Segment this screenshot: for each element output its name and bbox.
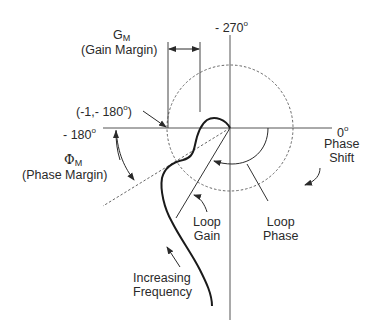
phase-shift-line2: Shift [324, 151, 359, 165]
loop-gain-line1: Loop [193, 215, 221, 229]
critical-point-value: (-1,- 180 [76, 105, 123, 119]
loop-gain-pointer [194, 195, 207, 212]
phase-shift-arrow [305, 168, 320, 185]
frequency-line2: Frequency [133, 285, 192, 299]
frequency-label: Increasing Frequency [133, 271, 192, 299]
phase-shift-label: Phase Shift [324, 137, 359, 165]
gain-margin-label: (Gain Margin) [81, 43, 157, 57]
top-axis-value: - 270 [215, 21, 244, 35]
phase-shift-line1: Phase [324, 137, 359, 151]
critical-point-label: (-1,- 180o) [76, 101, 132, 119]
left-axis-value: - 180 [63, 128, 92, 142]
increasing-frequency-arrow [167, 247, 180, 267]
phase-margin-label: (Phase Margin) [22, 168, 107, 182]
phase-margin-letter: Φ [64, 152, 75, 167]
loop-phase-line2: Phase [263, 229, 298, 243]
frequency-line1: Increasing [133, 271, 192, 285]
loop-gain-vector [176, 128, 230, 218]
left-axis-degree: o [92, 126, 96, 135]
loop-phase-arc [214, 128, 268, 164]
loop-phase-pointer [247, 164, 268, 201]
top-axis-label: - 270o [215, 17, 248, 35]
phase-margin-line [103, 128, 230, 206]
loop-phase-label: Loop Phase [263, 215, 298, 243]
left-axis-label: - 180o [63, 124, 96, 142]
loop-gain-line2: Gain [193, 229, 221, 243]
right-axis-degree: o [344, 124, 348, 133]
critical-point-arrow [143, 111, 166, 127]
phase-margin-subscript: M [75, 158, 83, 168]
loop-gain-label: Loop Gain [193, 215, 221, 243]
loop-phase-line1: Loop [263, 215, 298, 229]
top-axis-degree: o [244, 19, 248, 28]
gain-margin-letter: G [113, 28, 123, 42]
critical-point-close: ) [128, 105, 132, 119]
gain-margin-subscript: M [123, 33, 131, 43]
